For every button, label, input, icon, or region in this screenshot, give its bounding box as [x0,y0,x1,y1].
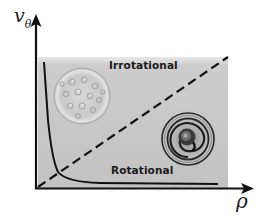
y-axis-symbol: v [14,4,25,26]
petri-dish-image [54,68,110,124]
spiral-vortex-image [158,109,218,169]
irrotational-label: Irrotational [109,59,178,71]
rotational-label: Rotational [111,164,173,176]
diagram-canvas [0,0,278,218]
y-axis-label: vθ [14,6,31,33]
diagram: vθ ρ Irrotational Rotational [0,0,278,218]
x-axis-label: ρ [236,190,248,212]
y-axis-subscript: θ [25,18,32,31]
